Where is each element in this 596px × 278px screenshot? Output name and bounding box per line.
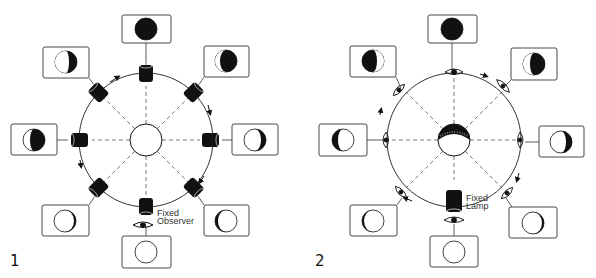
figure-2 <box>319 15 584 267</box>
eye-icon <box>133 222 153 228</box>
direction-arrow <box>480 74 486 76</box>
direction-arrow <box>517 173 519 180</box>
figure-1 <box>11 15 278 268</box>
lamp-icon <box>446 190 462 213</box>
figure-number-1: 1 <box>10 252 20 270</box>
label-line-2: Lamp <box>466 202 489 210</box>
direction-arrow <box>405 198 412 201</box>
fixed-observer-label: Fixed Observer <box>157 209 194 225</box>
figure-number-2: 2 <box>315 252 325 270</box>
moon-sphere <box>438 124 470 156</box>
fixed-lamp-label: Fixed Lamp <box>466 194 489 210</box>
diagram-canvas <box>0 0 596 278</box>
moon-sphere <box>130 124 162 156</box>
direction-arrow <box>80 160 81 166</box>
direction-arrow <box>380 110 381 115</box>
direction-arrow <box>208 105 210 113</box>
label-line-2: Observer <box>157 217 194 225</box>
